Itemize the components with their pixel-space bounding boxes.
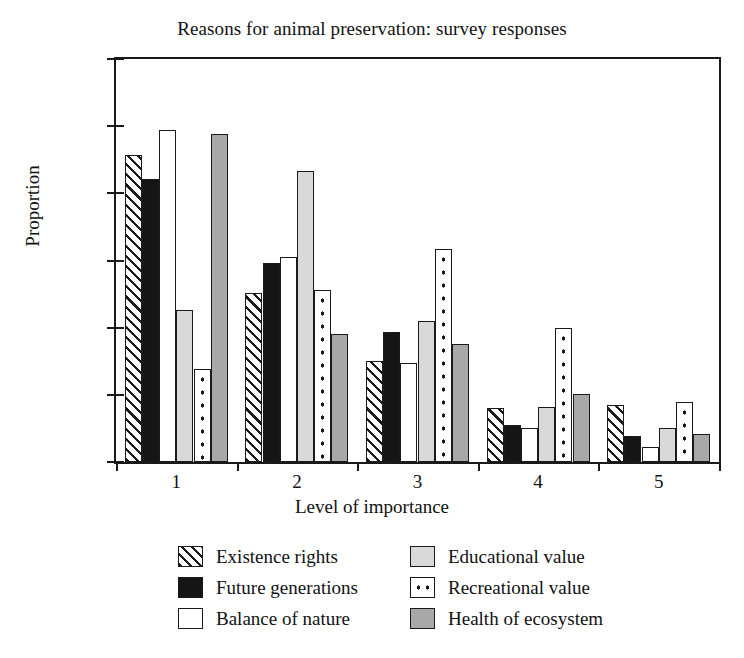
x-axis-tick — [116, 462, 118, 471]
bar — [142, 179, 159, 462]
y-axis-tick-inner — [116, 125, 124, 127]
chart-figure: Reasons for animal preservation: survey … — [0, 0, 744, 658]
x-axis-tick-label: 2 — [277, 471, 317, 493]
y-axis-tick — [107, 125, 116, 127]
bar — [521, 428, 538, 462]
chart-title: Reasons for animal preservation: survey … — [0, 18, 744, 40]
legend-item: Health of ecosystem — [410, 608, 670, 630]
bar — [693, 434, 710, 462]
bar — [280, 257, 297, 462]
legend-label: Health of ecosystem — [448, 608, 603, 630]
y-axis-tick-inner — [116, 192, 124, 194]
y-axis-tick — [107, 327, 116, 329]
x-axis-tick-label: 1 — [156, 471, 196, 493]
x-axis-tick-label: 4 — [518, 471, 558, 493]
legend-label: Educational value — [448, 546, 585, 568]
bar — [418, 321, 435, 462]
bar — [555, 328, 572, 462]
y-axis-tick — [107, 461, 116, 463]
legend-item: Recreational value — [410, 577, 670, 599]
x-axis-tick-label: 5 — [639, 471, 679, 493]
y-axis-tick-inner — [116, 260, 124, 262]
bar — [314, 290, 331, 462]
legend-label: Existence rights — [216, 546, 338, 568]
bar — [176, 310, 193, 462]
legend-label: Balance of nature — [216, 608, 350, 630]
bar — [538, 407, 555, 462]
legend-swatch-icon — [178, 577, 203, 598]
x-axis-tick — [237, 462, 239, 471]
x-axis-tick — [478, 462, 480, 471]
legend-swatch-icon — [178, 546, 203, 567]
bar — [400, 363, 417, 462]
bar — [504, 425, 521, 462]
bar — [676, 402, 693, 462]
bar — [125, 155, 142, 462]
bar — [642, 447, 659, 462]
bar — [383, 332, 400, 462]
bar — [435, 249, 452, 462]
legend-item: Future generations — [178, 577, 410, 599]
bar — [331, 334, 348, 462]
legend-item: Balance of nature — [178, 608, 410, 630]
plot-area: 00.10.20.30.40.50.612345 — [114, 57, 721, 464]
bar — [487, 408, 504, 462]
bar — [211, 134, 228, 462]
y-axis-tick — [107, 58, 116, 60]
legend-item: Educational value — [410, 546, 670, 568]
legend-label: Future generations — [216, 577, 358, 599]
bar — [624, 436, 641, 462]
y-axis-tick — [107, 192, 116, 194]
bar — [607, 405, 624, 462]
y-axis-tick-inner — [116, 327, 124, 329]
bar — [159, 130, 176, 462]
legend-label: Recreational value — [448, 577, 590, 599]
x-axis-tick — [357, 462, 359, 471]
legend-swatch-icon — [410, 546, 435, 567]
y-axis-tick — [107, 394, 116, 396]
y-axis-tick — [107, 260, 116, 262]
y-axis-title: Proportion — [22, 126, 44, 286]
bar — [194, 369, 211, 462]
y-axis-tick-inner — [116, 58, 124, 60]
legend-swatch-icon — [410, 608, 435, 629]
bar — [573, 394, 590, 462]
x-axis-tick — [719, 462, 721, 471]
bar — [659, 428, 676, 462]
x-axis-tick-label: 3 — [398, 471, 438, 493]
y-axis-tick-inner — [116, 394, 124, 396]
chart-legend: Existence rightsEducational valueFuture … — [178, 541, 698, 634]
x-axis-title: Level of importance — [0, 496, 744, 518]
legend-item: Existence rights — [178, 546, 410, 568]
bar — [245, 293, 262, 462]
x-axis-tick — [598, 462, 600, 471]
legend-swatch-icon — [178, 608, 203, 629]
bar — [263, 263, 280, 462]
bar — [366, 361, 383, 462]
legend-swatch-icon — [410, 577, 435, 598]
bar — [452, 344, 469, 462]
bar — [297, 171, 314, 462]
